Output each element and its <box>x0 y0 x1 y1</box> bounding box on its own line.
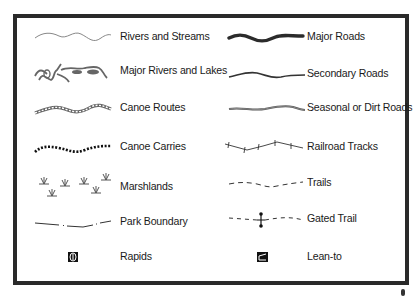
legend-label: Trails <box>307 176 331 188</box>
legend-label: Marshlands <box>120 180 173 192</box>
legend-label: Rapids <box>120 250 152 262</box>
corner-mark <box>401 289 405 296</box>
legend-label: Seasonal or Dirt Roads <box>307 101 412 113</box>
gated-trail-icon <box>227 208 307 232</box>
railroad-icon <box>223 136 307 160</box>
rapids-icon <box>33 246 113 270</box>
park-boundary-icon <box>33 211 113 235</box>
legend-label: Railroad Tracks <box>307 140 378 152</box>
river-lake-icon <box>33 60 113 84</box>
legend-label: Major Rivers and Lakes <box>120 64 227 76</box>
trail-icon <box>227 172 307 196</box>
major-road-icon <box>227 26 307 50</box>
legend-label: Gated Trail <box>307 212 357 224</box>
lean-to-icon <box>227 246 307 270</box>
legend-label: Park Boundary <box>120 215 188 227</box>
canoe-route-icon <box>33 97 113 121</box>
legend-label: Canoe Carries <box>120 140 186 152</box>
legend-label: Lean-to <box>307 250 342 262</box>
legend-label: Major Roads <box>307 30 365 42</box>
legend-label: Rivers and Streams <box>120 30 210 42</box>
marsh-icon <box>33 172 113 204</box>
legend-label: Secondary Roads <box>307 67 388 79</box>
river-stream-icon <box>33 26 113 50</box>
secondary-road-icon <box>227 63 307 87</box>
canoe-carry-icon <box>33 136 113 160</box>
legend-label: Canoe Routes <box>120 101 185 113</box>
dirt-road-icon <box>227 97 307 121</box>
